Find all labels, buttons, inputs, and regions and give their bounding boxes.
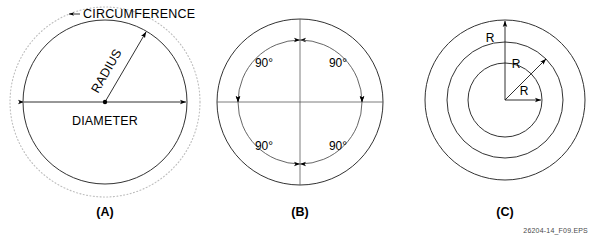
panel-b-caption: (B): [291, 205, 308, 219]
panel-b-group: 90° 90° 90° 90° (B): [217, 19, 383, 219]
panel-c-radius-middle-label: R: [512, 57, 521, 71]
panel-b-arc-bottom-left: [238, 102, 300, 164]
panel-b-arc-top-right: [300, 40, 362, 102]
diameter-label: DIAMETER: [72, 114, 138, 128]
radius-label: RADIUS: [88, 47, 124, 96]
panel-b-angle-bottom-right: 90°: [329, 139, 347, 153]
panel-b-angle-top-right: 90°: [329, 56, 347, 70]
panel-b-arc-top-left: [238, 40, 300, 102]
panel-a-group: CIRCUMFERENCE DIAMETER RADIUS (A): [10, 7, 200, 219]
panel-c-caption: (C): [496, 205, 513, 219]
panel-c-radius-outer-label: R: [486, 31, 495, 45]
panel-c-group: R R R (C): [425, 20, 585, 219]
panel-b-angle-top-left: 90°: [255, 56, 273, 70]
circumference-label: CIRCUMFERENCE: [83, 7, 195, 21]
circle-terminology-figure: CIRCUMFERENCE DIAMETER RADIUS (A) 90° 90…: [0, 0, 592, 240]
panel-b-angle-bottom-left: 90°: [255, 139, 273, 153]
panel-a-center-point: [103, 100, 107, 104]
panel-b-arc-bottom-right: [300, 102, 362, 164]
source-caption: 26204-14_F09.EPS: [523, 227, 588, 235]
panel-c-radius-inner-label: R: [520, 84, 529, 98]
figure-root: CIRCUMFERENCE DIAMETER RADIUS (A) 90° 90…: [0, 0, 592, 240]
panel-a-caption: (A): [96, 205, 113, 219]
